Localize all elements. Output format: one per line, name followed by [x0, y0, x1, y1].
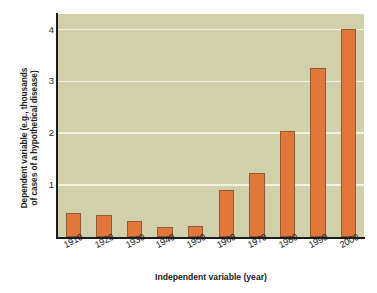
y-tick-label-2: 2	[40, 128, 54, 138]
bar-1990	[310, 68, 325, 237]
bars-layer	[58, 14, 364, 237]
bar-1970	[249, 173, 264, 237]
x-axis-title: Independent variable (year)	[58, 272, 364, 282]
y-axis-tick-labels: 4 3 2 1	[38, 0, 54, 293]
x-axis-tick-labels: 1910192019301940195019601970198019902000	[58, 237, 364, 271]
y-axis-title-line-1: Dependent variable (e.g., thousands	[19, 32, 29, 244]
y-tick-label-1: 1	[40, 180, 54, 190]
bar-chart-figure: Dependent variable (e.g., thousands of c…	[0, 0, 377, 293]
y-axis-line	[56, 13, 59, 239]
y-tick-label-4: 4	[40, 25, 54, 35]
bar-1980	[280, 131, 295, 237]
bar-1960	[219, 190, 234, 237]
y-tick-label-3: 3	[40, 76, 54, 86]
bar-2000	[341, 29, 356, 237]
